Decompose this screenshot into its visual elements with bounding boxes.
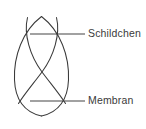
label-membran: Membran xyxy=(88,95,133,106)
diagram-drawing xyxy=(0,0,146,129)
label-schildchen: Schildchen xyxy=(88,28,141,39)
figure-root: Schildchen Membran xyxy=(0,0,146,129)
inner-arc-right-to-left xyxy=(19,18,58,104)
caption-cut-off xyxy=(4,121,142,129)
inner-arc-left-to-right xyxy=(26,18,65,104)
